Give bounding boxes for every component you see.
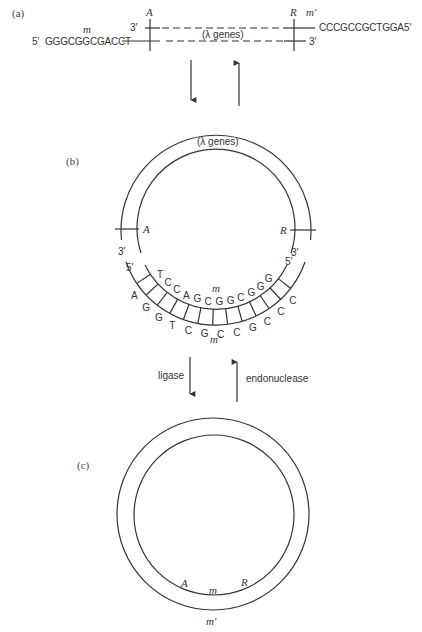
inner-base: G <box>265 273 273 284</box>
panel-a: (a) m′ 3′ CCCGCCGCTGGA 5′ m 5′ GGGCGGCGA… <box>12 6 412 51</box>
outer-base: C <box>289 295 296 306</box>
base-pair-rung <box>238 306 242 321</box>
outer-base: C <box>233 327 240 338</box>
marker-r-label-c: R <box>240 576 248 588</box>
inner-base: C <box>237 292 244 303</box>
panel-a-label: (a) <box>12 7 25 20</box>
outer-base: G <box>201 328 209 339</box>
base-pair-rung <box>137 274 150 283</box>
lambda-genes-label: (λ genes) <box>202 29 244 40</box>
base-pair-rung <box>147 284 159 295</box>
outer-base: C <box>185 325 192 336</box>
outer-base: A <box>131 290 138 301</box>
outer-base: C <box>277 306 284 317</box>
bottom-strand-sequence: GGGCGGCGACCT <box>45 36 131 47</box>
strand-m-prime-label-b: m′ <box>210 333 221 345</box>
panel-b: (b) (λ genes) A R 3′ 5′ 3′ 5′ TCCAGCGGCG… <box>66 135 316 345</box>
outer-base: G <box>142 302 150 313</box>
panel-c-label: (c) <box>77 459 90 472</box>
base-pair-rung <box>198 308 201 324</box>
inner-base: G <box>247 287 255 298</box>
marker-a-label: A <box>145 6 153 18</box>
base-pair-rung <box>260 295 269 308</box>
lambda-genes-label-b: (λ genes) <box>197 136 239 147</box>
base-pair-rung <box>270 288 281 300</box>
outer-base: G <box>249 322 257 333</box>
bottom-strand-3prime-end: 3′ <box>309 36 317 47</box>
inner-strand-circle <box>134 435 294 595</box>
base-pair-rung <box>226 308 228 324</box>
inner-base: T <box>157 269 163 280</box>
ligase-label: ligase <box>158 370 185 381</box>
endonuclease-label: endonuclease <box>246 373 309 384</box>
strand-m-prime-label-c: m′ <box>206 615 217 627</box>
diagram-canvas: (a) m′ 3′ CCCGCCGCTGGA 5′ m 5′ GGGCGGCGA… <box>0 0 422 632</box>
strand-m-label-b: m <box>212 282 220 294</box>
inner-base: G <box>257 281 265 292</box>
base-pair-rung <box>170 299 178 313</box>
top-strand-3prime-end: 3′ <box>130 22 138 33</box>
inner-base: G <box>194 293 202 304</box>
inner-base: G <box>227 295 235 306</box>
outer-base: C <box>264 316 271 327</box>
inner-base: C <box>204 296 211 307</box>
right-inner-5prime: 5′ <box>285 256 293 267</box>
panel-c: (c) A R m m′ <box>77 418 309 627</box>
base-pair-rung <box>249 302 256 317</box>
base-pair-rung <box>213 309 214 325</box>
strand-m-label-c: m <box>209 584 217 596</box>
base-pair-rung <box>184 304 189 319</box>
inner-base: A <box>183 290 190 301</box>
strand-m-label: m <box>83 23 91 35</box>
inner-base: C <box>165 277 172 288</box>
outer-base: T <box>169 320 175 331</box>
outer-base: G <box>155 312 163 323</box>
top-strand-5prime-end: 5′ <box>404 22 412 33</box>
top-strand-sequence: CCCGCCGCTGGA <box>319 22 404 33</box>
marker-a-label-b: A <box>142 223 150 235</box>
inner-strand-top-arc <box>137 149 295 253</box>
left-outer-3prime: 3′ <box>118 246 126 257</box>
strand-m-prime-label: m′ <box>306 6 317 18</box>
panel-b-label: (b) <box>66 155 79 168</box>
marker-r-label: R <box>289 6 297 18</box>
inner-base: G <box>216 296 224 307</box>
outer-strand-circle <box>117 418 309 610</box>
left-inner-5prime: 5′ <box>126 262 134 273</box>
base-pair-rung <box>278 279 291 289</box>
bottom-strand-5prime-end: 5′ <box>32 36 40 47</box>
marker-a-label-c: A <box>180 577 188 589</box>
inner-base: C <box>173 284 180 295</box>
base-pair-rung <box>158 292 168 305</box>
marker-r-label-b: R <box>279 224 287 236</box>
